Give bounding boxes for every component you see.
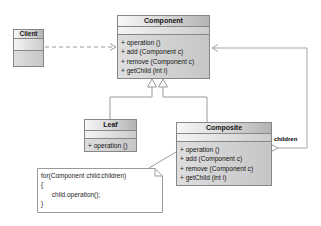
class-client-name: Client — [14, 30, 43, 39]
hollow-triangle-arrowhead-icon — [148, 79, 157, 87]
note-text: for(Component child:children) { child.op… — [41, 171, 161, 208]
class-component-methods: + operation () + add (Component c) + rem… — [118, 35, 209, 78]
method: + add (Component c) — [118, 48, 209, 55]
class-composite-methods: + operation () + add (Component c) + rem… — [177, 142, 271, 185]
class-component: Component + operation () + add (Componen… — [117, 15, 210, 79]
method: + operation () — [85, 142, 136, 149]
class-component-name: Component — [118, 16, 209, 27]
method: + remove (Component c) — [118, 58, 209, 65]
class-leaf-name: Leaf — [85, 120, 136, 131]
generalization-composite-component — [159, 79, 208, 122]
class-component-attributes — [118, 27, 209, 35]
class-composite-attributes — [177, 134, 271, 142]
method: + operation () — [177, 146, 271, 153]
class-client-attributes — [14, 39, 43, 51]
note-line: { — [41, 180, 161, 189]
note-line: for(Component child:children) — [41, 171, 161, 180]
hollow-triangle-arrowhead-icon — [159, 79, 168, 87]
open-arrowhead-icon — [110, 44, 116, 51]
note-anchor-line — [149, 152, 176, 168]
generalization-leaf-component — [110, 79, 157, 119]
uml-composite-pattern-diagram: Client Component + operation () + add (C… — [0, 0, 321, 226]
class-client: Client — [13, 29, 44, 67]
method: + add (Component c) — [177, 155, 271, 162]
class-leaf-methods: + operation () — [85, 139, 136, 151]
note-line: } — [41, 199, 161, 208]
method: + getChild (int i) — [118, 67, 209, 74]
class-leaf: Leaf + operation () — [84, 119, 137, 152]
class-composite: Composite + operation () + add (Componen… — [176, 122, 272, 186]
class-composite-name: Composite — [177, 123, 271, 134]
method: + remove (Component c) — [177, 165, 271, 172]
dependency-client-component — [45, 44, 116, 51]
method: + getChild (int i) — [177, 174, 271, 181]
open-arrowhead-icon — [212, 45, 218, 52]
association-label-children: children — [274, 136, 297, 142]
note-line: child.operation(); — [41, 190, 161, 199]
method: + operation () — [118, 39, 209, 46]
class-leaf-attributes — [85, 131, 136, 139]
class-client-methods — [14, 51, 43, 66]
